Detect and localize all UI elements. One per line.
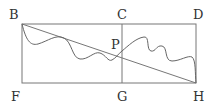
label-b: B [9,7,19,22]
label-h: H [193,89,204,104]
geometry-diagram: B C D P F G H [0,0,220,110]
label-c: C [117,7,127,22]
label-g: G [117,89,127,104]
label-p: P [111,37,120,52]
label-f: F [11,89,20,104]
label-d: D [193,7,203,22]
diagonal-bh [22,24,196,83]
